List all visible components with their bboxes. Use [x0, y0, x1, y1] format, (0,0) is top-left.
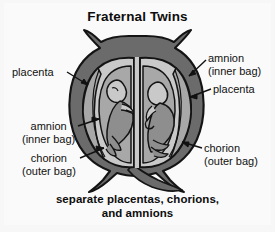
label-chorion-left: chorion (outer bag) — [22, 152, 76, 178]
figure-caption-line2: and amnions — [102, 207, 173, 219]
figure-caption-line1: separate placentas, chorions, — [56, 193, 219, 205]
label-amnion-left-line1: amnion — [31, 120, 67, 132]
label-amnion-right-line1: amnion — [208, 52, 244, 64]
label-placenta-right: placenta — [213, 83, 255, 96]
figure-caption: separate placentas, chorions, and amnion… — [0, 192, 275, 220]
label-chorion-left-line2: (outer bag) — [22, 165, 76, 178]
label-amnion-right-line2: (inner bag) — [208, 65, 261, 78]
label-amnion-left-line2: (inner bag) — [22, 133, 75, 146]
label-amnion-left: amnion (inner bag) — [22, 120, 75, 146]
label-amnion-right: amnion (inner bag) — [208, 52, 261, 78]
label-chorion-left-line1: chorion — [31, 152, 67, 164]
label-placenta-right-line1: placenta — [213, 83, 255, 95]
label-chorion-right-line2: (outer bag) — [204, 155, 258, 168]
label-chorion-right: chorion (outer bag) — [204, 142, 258, 168]
label-placenta-left: placenta — [12, 66, 54, 79]
figure-canvas: Fraternal Twins — [0, 0, 275, 232]
label-placenta-left-line1: placenta — [12, 66, 54, 78]
label-chorion-right-line1: chorion — [204, 142, 240, 154]
